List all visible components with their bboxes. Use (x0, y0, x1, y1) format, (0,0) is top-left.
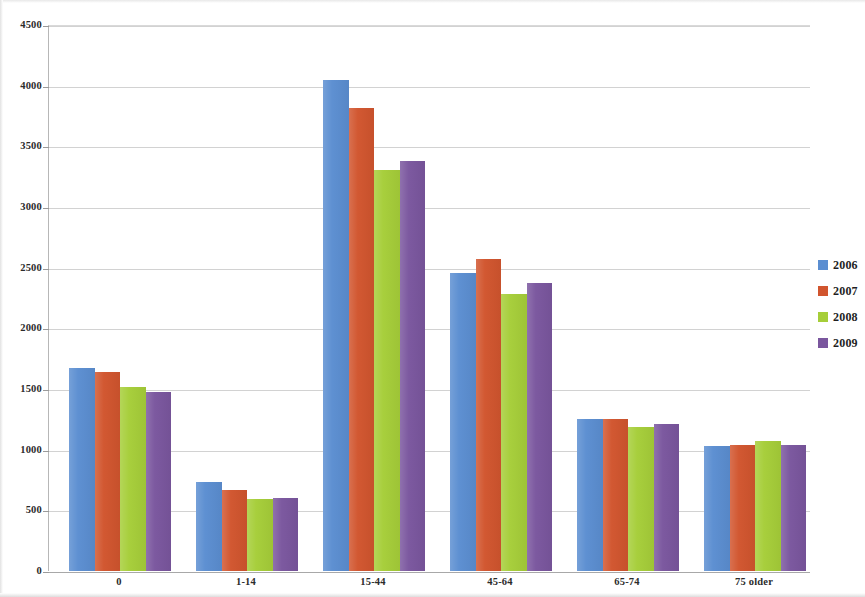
bar-2007-1-14[interactable] (222, 490, 248, 571)
bar-shading (730, 445, 756, 571)
legend-label: 2007 (833, 285, 858, 297)
legend-swatch-icon (818, 260, 828, 270)
bar-shading (577, 419, 603, 571)
bar-shading (196, 482, 222, 571)
bar-shading (450, 273, 476, 571)
x-axis-label-65-74: 65-74 (587, 576, 667, 587)
x-axis-label-0: 0 (79, 576, 159, 587)
bar-shading (781, 445, 807, 571)
bar-2009-0[interactable] (146, 392, 172, 571)
x-axis-tick-labels: 01-1415-4445-6465-7475 older (48, 576, 810, 596)
bar-shading (603, 419, 629, 571)
y-axis-tick-label: 3500 (0, 140, 42, 151)
legend-label: 2009 (833, 337, 858, 349)
gridline (49, 572, 810, 573)
bar-shading (476, 259, 502, 571)
bar-2008-65-74[interactable] (628, 427, 654, 571)
y-axis-tick-label: 4500 (0, 19, 42, 30)
bar-shading (273, 498, 299, 571)
page-edge-top (0, 0, 865, 3)
bar-shading (400, 161, 426, 571)
bar-shading (704, 446, 730, 571)
bar-2007-0[interactable] (95, 372, 121, 571)
legend-swatch-icon (818, 312, 828, 322)
y-axis-tick-label: 2500 (0, 262, 42, 273)
bar-shading (349, 108, 375, 571)
y-axis-tick-label: 4000 (0, 80, 42, 91)
bar-shading (222, 490, 248, 571)
y-axis-tick-label: 500 (0, 504, 42, 515)
y-axis-tick-label: 3000 (0, 201, 42, 212)
x-axis-label-15-44: 15-44 (333, 576, 413, 587)
bar-shading (527, 283, 553, 571)
bar-shading (374, 170, 400, 571)
bar-2006-45-64[interactable] (450, 273, 476, 571)
bar-2009-65-74[interactable] (654, 424, 680, 571)
bar-2006-0[interactable] (69, 368, 95, 571)
legend-swatch-icon (818, 338, 828, 348)
bar-shading (146, 392, 172, 571)
bars-layer (49, 26, 810, 571)
bar-shading (69, 368, 95, 571)
bar-2009-15-44[interactable] (400, 161, 426, 571)
x-axis-label-75-older: 75 older (714, 576, 794, 587)
legend-item-2007[interactable]: 2007 (818, 278, 865, 304)
bar-2008-75-older[interactable] (755, 441, 781, 571)
bar-shading (120, 387, 146, 571)
bar-shading (323, 80, 349, 571)
legend-item-2008[interactable]: 2008 (818, 304, 865, 330)
bar-shading (501, 294, 527, 571)
legend-item-2009[interactable]: 2009 (818, 330, 865, 356)
bar-2008-0[interactable] (120, 387, 146, 571)
legend-item-2006[interactable]: 2006 (818, 252, 865, 278)
bar-2008-45-64[interactable] (501, 294, 527, 571)
x-axis-label-45-64: 45-64 (460, 576, 540, 587)
bar-2007-65-74[interactable] (603, 419, 629, 571)
y-axis-tick-label: 2000 (0, 322, 42, 333)
bar-2006-75-older[interactable] (704, 446, 730, 571)
bar-2008-1-14[interactable] (247, 499, 273, 571)
bar-2006-65-74[interactable] (577, 419, 603, 571)
bar-shading (95, 372, 121, 571)
legend: 2006200720082009 (818, 252, 865, 356)
bar-2009-45-64[interactable] (527, 283, 553, 571)
bar-shading (628, 427, 654, 571)
bar-chart: 050010001500200025003000350040004500 01-… (0, 0, 865, 597)
plot-area (48, 25, 810, 571)
bar-2007-45-64[interactable] (476, 259, 502, 571)
bar-2007-75-older[interactable] (730, 445, 756, 571)
bar-2006-15-44[interactable] (323, 80, 349, 571)
legend-label: 2006 (833, 259, 858, 271)
y-axis-tick-label: 1500 (0, 383, 42, 394)
bar-2009-1-14[interactable] (273, 498, 299, 571)
bar-2007-15-44[interactable] (349, 108, 375, 571)
bar-shading (755, 441, 781, 571)
legend-label: 2008 (833, 311, 858, 323)
bar-2008-15-44[interactable] (374, 170, 400, 571)
y-axis-tick (43, 572, 49, 573)
y-axis-tick-label: 1000 (0, 444, 42, 455)
bar-shading (247, 499, 273, 571)
bar-2009-75-older[interactable] (781, 445, 807, 571)
bar-shading (654, 424, 680, 571)
x-axis-label-1-14: 1-14 (206, 576, 286, 587)
bar-2006-1-14[interactable] (196, 482, 222, 571)
y-axis-tick-label: 0 (0, 565, 42, 576)
legend-swatch-icon (818, 286, 828, 296)
